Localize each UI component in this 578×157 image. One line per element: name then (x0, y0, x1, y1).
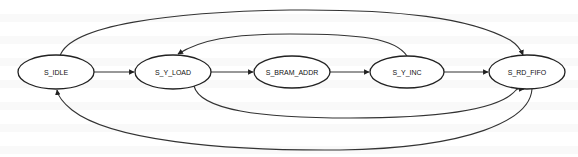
edge-rd-fifo-to-idle (57, 89, 532, 150)
edge-y-load-to-rd-fifo (194, 86, 524, 118)
node-y-load[interactable]: S_Y_LOAD (135, 55, 211, 89)
state-diagram: S_IDLE S_Y_LOAD S_BRAM_ADDR S_Y_INC S_RD… (0, 0, 578, 157)
node-idle[interactable]: S_IDLE (18, 55, 94, 89)
state-label: S_Y_INC (392, 69, 421, 77)
node-rd-fifo[interactable]: S_RD_FIFO (489, 55, 565, 89)
edge-idle-to-rd-fifo (60, 10, 523, 56)
node-y-inc[interactable]: S_Y_INC (370, 56, 444, 88)
state-label: S_Y_LOAD (155, 69, 191, 77)
edge-y-inc-to-y-load (178, 34, 407, 56)
node-bram-addr[interactable]: S_BRAM_ADDR (254, 56, 330, 88)
state-label: S_BRAM_ADDR (266, 69, 319, 77)
state-label: S_RD_FIFO (508, 69, 547, 77)
state-label: S_IDLE (44, 69, 68, 77)
